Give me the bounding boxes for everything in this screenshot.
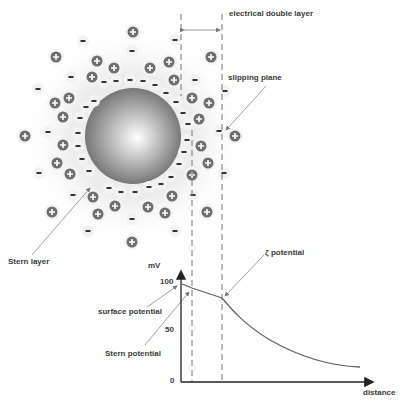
positive-ion-icon — [142, 60, 158, 76]
negative-ion-icon — [124, 74, 136, 86]
positive-ion-icon — [107, 198, 123, 214]
positive-ion-icon — [193, 138, 209, 154]
positive-ion-icon — [227, 128, 243, 144]
positive-ion-icon — [62, 166, 78, 182]
positive-ion-icon — [47, 95, 63, 111]
negative-ion-icon — [32, 83, 44, 95]
negative-ion-icon — [165, 171, 177, 183]
zeta-potential-arrow — [225, 255, 264, 296]
positive-ion-icon — [199, 204, 215, 220]
y-tick-0: 0 — [170, 377, 174, 385]
negative-ion-icon — [160, 87, 172, 99]
negative-ion-icon — [129, 186, 141, 198]
negative-ion-icon — [178, 146, 190, 158]
negative-ion-icon — [155, 178, 167, 190]
negative-ion-icon — [219, 85, 231, 97]
positive-ion-icon — [200, 155, 216, 171]
positive-ion-icon — [164, 188, 180, 204]
positive-ion-icon — [191, 111, 207, 127]
positive-ion-icon — [124, 234, 140, 250]
positive-ion-icon — [184, 90, 200, 106]
surface-potential-label: surface potential — [98, 308, 162, 316]
negative-ion-icon — [67, 189, 79, 201]
negative-ion-icon — [189, 74, 201, 86]
negative-ion-icon — [173, 158, 185, 170]
negative-ion-icon — [72, 127, 84, 139]
stern-potential-arrow — [145, 292, 189, 345]
electrical-double-layer-diagram — [0, 0, 403, 406]
negative-ion-icon — [126, 213, 138, 225]
positive-ion-icon — [48, 49, 64, 65]
negative-ion-icon — [218, 167, 230, 179]
negative-ion-icon — [65, 71, 77, 83]
positive-ion-icon — [49, 155, 65, 171]
y-tick-100: 100 — [160, 278, 173, 286]
negative-ion-icon — [126, 45, 138, 57]
negative-ion-icon — [83, 165, 95, 177]
surface-potential-arrow — [147, 286, 177, 307]
positive-ion-icon — [125, 24, 141, 40]
negative-ion-icon — [187, 189, 199, 201]
stern-layer-label: Stern layer — [8, 258, 49, 266]
positive-ion-icon — [201, 95, 217, 111]
negative-ion-icon — [149, 79, 161, 91]
negative-ion-icon — [177, 107, 189, 119]
positive-ion-icon — [90, 206, 106, 222]
negative-ion-icon — [76, 153, 88, 165]
x-axis-label: distance — [363, 389, 395, 397]
electrical-double-layer-label: electrical double layer — [229, 10, 313, 18]
negative-ion-icon — [72, 140, 84, 152]
negative-ion-icon — [170, 96, 182, 108]
negative-ion-icon — [82, 225, 94, 237]
y-axis-unit-label: mV — [148, 262, 160, 270]
positive-ion-icon — [55, 109, 71, 125]
potential-curve — [182, 284, 360, 367]
negative-ion-icon — [181, 134, 193, 146]
positive-ion-icon — [106, 60, 122, 76]
positive-ion-icon — [55, 137, 71, 153]
negative-ion-icon — [143, 181, 155, 193]
y-tick-50: 50 — [165, 326, 174, 334]
positive-ion-icon — [17, 128, 33, 144]
negative-ion-icon — [103, 182, 115, 194]
positive-ion-icon — [84, 69, 100, 85]
negative-ion-icon — [137, 75, 149, 87]
negative-ion-icon — [169, 225, 181, 237]
negative-ion-icon — [33, 167, 45, 179]
positive-ion-icon — [161, 54, 177, 70]
negative-ion-icon — [213, 125, 225, 137]
negative-ion-icon — [80, 101, 92, 113]
positive-ion-icon — [140, 199, 156, 215]
zeta-potential-label: ζ potential — [265, 249, 304, 257]
positive-ion-icon — [89, 53, 105, 69]
positive-ion-icon — [203, 49, 219, 65]
negative-ion-icon — [42, 126, 54, 138]
negative-ion-icon — [110, 75, 122, 87]
positive-ion-icon — [44, 204, 60, 220]
positive-ion-icon — [157, 205, 173, 221]
negative-ion-icon — [77, 35, 89, 47]
stern-potential-label: Stern potential — [105, 350, 161, 358]
positive-ion-icon — [61, 90, 77, 106]
negative-ion-icon — [74, 112, 86, 124]
negative-ion-icon — [169, 34, 181, 46]
slipping-plane-label: slipping plane — [228, 74, 282, 82]
negative-ion-icon — [115, 186, 127, 198]
positive-ion-icon — [166, 72, 182, 88]
